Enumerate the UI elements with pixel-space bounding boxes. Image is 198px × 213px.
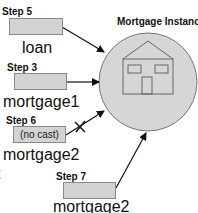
reference-name: loan: [22, 40, 52, 56]
blocked-x-icon: [75, 121, 85, 132]
reference-name: mortgage2: [53, 199, 130, 213]
reference-name: mortgage2: [3, 147, 80, 163]
reference-box-mortgage2: [63, 182, 116, 199]
arrow-loan: [62, 27, 104, 52]
instance-title: Mortgage Instance: [117, 17, 198, 27]
step-label: Step 5: [2, 7, 32, 17]
step-label: Step 3: [7, 63, 37, 73]
step-label: Step 6: [6, 116, 36, 126]
reference-box-nocast: (no cast): [13, 126, 66, 143]
arrow-mortgage2-step7: [116, 133, 146, 188]
reference-box-mortgage1: [14, 73, 67, 90]
step-label: Step 7: [56, 172, 86, 182]
reference-box-loan: [9, 18, 63, 35]
reference-name: mortgage1: [3, 94, 80, 110]
mortgage-instance-circle: [99, 33, 197, 131]
